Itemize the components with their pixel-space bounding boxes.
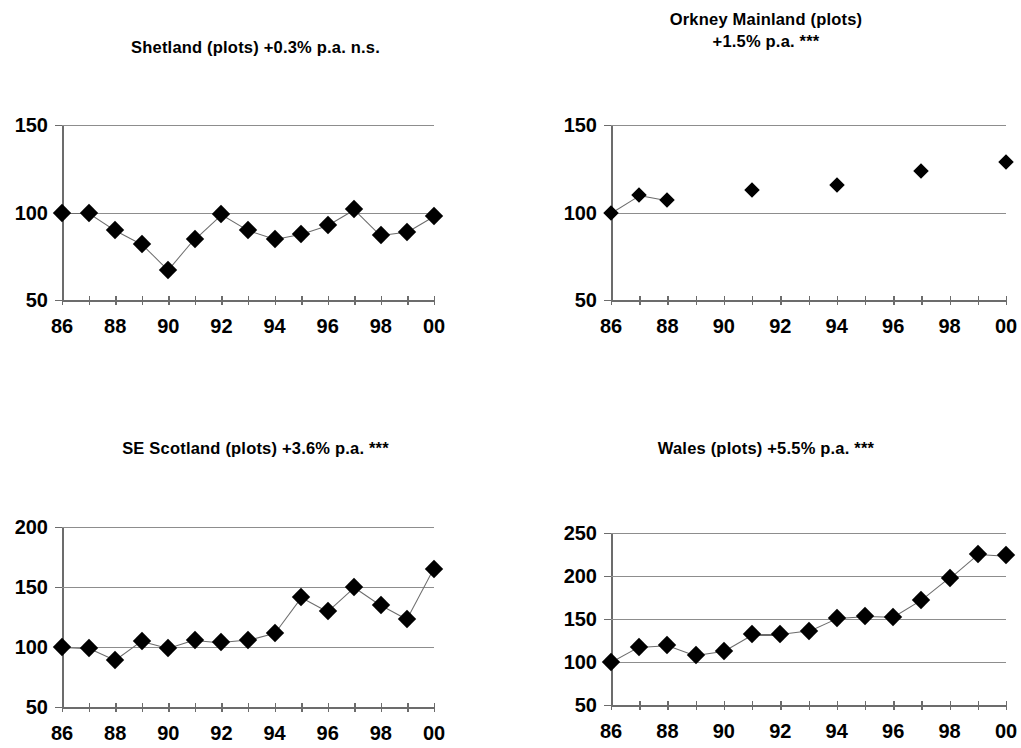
x-axis-tick bbox=[168, 703, 169, 712]
data-point-marker bbox=[630, 637, 648, 655]
data-point-marker bbox=[602, 653, 620, 671]
x-axis-label: 94 bbox=[263, 723, 285, 743]
x-axis-tick bbox=[142, 296, 143, 305]
y-axis-label: 100 bbox=[564, 652, 597, 672]
x-axis-label: 00 bbox=[423, 316, 445, 336]
data-point-marker bbox=[715, 642, 733, 660]
y-axis-label: 50 bbox=[26, 697, 48, 717]
x-axis-label: 96 bbox=[317, 723, 339, 743]
chart-title-line: Orkney Mainland (plots) bbox=[511, 8, 1021, 30]
data-point-marker bbox=[265, 230, 283, 248]
y-axis-tick bbox=[55, 300, 62, 301]
y-axis-label: 50 bbox=[575, 290, 597, 310]
x-axis-tick bbox=[248, 703, 249, 712]
x-axis-label: 88 bbox=[104, 316, 126, 336]
x-axis-label: 88 bbox=[656, 721, 678, 741]
x-axis-tick bbox=[893, 701, 894, 710]
x-axis-tick bbox=[62, 703, 63, 712]
gridline bbox=[611, 125, 1006, 126]
y-axis-label: 150 bbox=[564, 115, 597, 135]
y-axis-label: 200 bbox=[15, 517, 48, 537]
x-axis-label: 94 bbox=[826, 721, 848, 741]
data-point-marker bbox=[997, 546, 1015, 564]
y-axis-tick bbox=[55, 125, 62, 126]
x-axis-tick bbox=[752, 701, 753, 710]
x-axis-tick bbox=[696, 296, 697, 305]
gridline bbox=[62, 125, 434, 126]
x-axis-tick bbox=[921, 296, 922, 305]
x-axis-tick bbox=[115, 296, 116, 305]
data-point-marker bbox=[603, 205, 619, 221]
x-axis-label: 00 bbox=[995, 316, 1017, 336]
x-axis-tick bbox=[1006, 296, 1007, 305]
data-point-marker bbox=[743, 625, 761, 643]
data-point-marker bbox=[398, 223, 416, 241]
y-axis-tick bbox=[604, 125, 611, 126]
y-axis-label: 250 bbox=[564, 523, 597, 543]
gridline bbox=[611, 619, 1006, 620]
gridline bbox=[611, 213, 1006, 214]
x-axis-tick bbox=[724, 296, 725, 305]
data-point-marker bbox=[884, 608, 902, 626]
data-point-marker bbox=[425, 560, 443, 578]
x-axis-label: 98 bbox=[370, 723, 392, 743]
x-axis-tick bbox=[89, 703, 90, 712]
data-point-marker bbox=[828, 609, 846, 627]
x-axis-label: 92 bbox=[769, 721, 791, 741]
x-axis-tick bbox=[407, 296, 408, 305]
y-axis-tick bbox=[55, 527, 62, 528]
plot-area-se-scotland: 200150100508688909294969800 bbox=[62, 527, 434, 707]
x-axis-label: 90 bbox=[157, 723, 179, 743]
y-axis-tick bbox=[604, 533, 611, 534]
x-axis-tick bbox=[275, 296, 276, 305]
gridline bbox=[62, 527, 434, 528]
x-axis-tick bbox=[328, 296, 329, 305]
panel-se-scotland: SE Scotland (plots) +3.6% p.a. *** 20015… bbox=[0, 420, 511, 748]
x-axis-label: 86 bbox=[600, 316, 622, 336]
chart-title-orkney: Orkney Mainland (plots)+1.5% p.a. *** bbox=[511, 8, 1021, 52]
chart-title-shetland: Shetland (plots) +0.3% p.a. n.s. bbox=[0, 36, 511, 58]
x-axis-tick bbox=[780, 296, 781, 305]
gridline bbox=[611, 533, 1006, 534]
x-axis-tick bbox=[809, 296, 810, 305]
x-axis-tick bbox=[89, 296, 90, 305]
data-point-marker bbox=[53, 203, 71, 221]
data-point-marker bbox=[744, 182, 760, 198]
x-axis-tick bbox=[639, 296, 640, 305]
y-axis-label: 50 bbox=[26, 290, 48, 310]
x-axis-tick bbox=[248, 296, 249, 305]
gridline bbox=[611, 662, 1006, 663]
y-axis-tick bbox=[55, 587, 62, 588]
data-point-marker bbox=[106, 221, 124, 239]
x-axis-tick bbox=[381, 703, 382, 712]
x-axis-tick bbox=[354, 703, 355, 712]
x-axis-label: 90 bbox=[713, 721, 735, 741]
panel-orkney: Orkney Mainland (plots)+1.5% p.a. *** 15… bbox=[511, 0, 1021, 420]
data-point-marker bbox=[771, 625, 789, 643]
x-axis-label: 88 bbox=[656, 316, 678, 336]
plot-area-shetland: 150100508688909294969800 bbox=[62, 125, 434, 300]
x-axis-tick bbox=[115, 703, 116, 712]
panel-wales: Wales (plots) +5.5% p.a. *** 25020015010… bbox=[511, 420, 1021, 748]
y-axis-label: 100 bbox=[564, 203, 597, 223]
data-point-marker bbox=[292, 587, 310, 605]
x-axis-label: 92 bbox=[210, 316, 232, 336]
data-point-marker bbox=[292, 224, 310, 242]
data-point-marker bbox=[631, 187, 647, 203]
x-axis-tick bbox=[893, 296, 894, 305]
x-axis-tick bbox=[809, 701, 810, 710]
x-axis-tick bbox=[354, 296, 355, 305]
data-point-marker bbox=[398, 610, 416, 628]
gridline bbox=[62, 587, 434, 588]
x-axis-tick bbox=[978, 701, 979, 710]
x-axis-tick bbox=[611, 701, 612, 710]
y-axis-tick bbox=[604, 300, 611, 301]
x-axis-tick bbox=[434, 296, 435, 305]
x-axis-label: 92 bbox=[769, 316, 791, 336]
y-axis-label: 100 bbox=[15, 637, 48, 657]
x-axis-label: 96 bbox=[317, 316, 339, 336]
data-point-marker bbox=[998, 154, 1014, 170]
x-axis-tick bbox=[195, 296, 196, 305]
x-axis-tick bbox=[381, 296, 382, 305]
x-axis-label: 00 bbox=[995, 721, 1017, 741]
